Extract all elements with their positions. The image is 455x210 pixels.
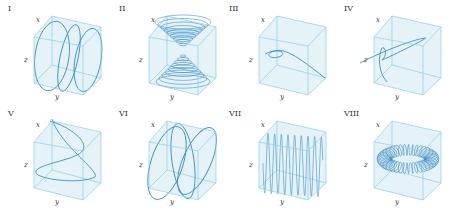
- x-axis-label: x: [36, 16, 40, 24]
- panel-v: V x z y: [0, 105, 114, 210]
- panel-i: I x z y: [0, 0, 114, 105]
- cube-plot: [0, 105, 114, 210]
- panel-numeral: VI: [119, 109, 128, 118]
- panel-numeral: V: [8, 109, 14, 118]
- panel-numeral: IV: [344, 4, 353, 13]
- z-axis-label: z: [24, 161, 28, 169]
- y-axis-label: y: [170, 198, 174, 206]
- z-axis-label: z: [364, 161, 368, 169]
- y-axis-label: y: [280, 93, 284, 101]
- y-axis-label: y: [55, 198, 59, 206]
- cube-plot: [0, 0, 114, 105]
- cube-plot: [115, 105, 229, 210]
- cube-plot: [340, 0, 454, 105]
- y-axis-label: y: [55, 93, 59, 101]
- z-axis-label: z: [364, 56, 368, 64]
- z-axis-label: z: [249, 161, 253, 169]
- panel-numeral: VIII: [344, 109, 359, 118]
- panel-iii: III x z y: [225, 0, 339, 105]
- y-axis-label: y: [170, 93, 174, 101]
- panel-numeral: III: [229, 4, 238, 13]
- cube-plot: [225, 105, 339, 210]
- x-axis-label: x: [261, 121, 265, 129]
- cube-plot: [340, 105, 454, 210]
- panel-ii: II x z y: [115, 0, 229, 105]
- z-axis-label: z: [139, 56, 143, 64]
- cube-plot: [225, 0, 339, 105]
- cube-plot: [115, 0, 229, 105]
- y-axis-label: y: [395, 198, 399, 206]
- panel-vii: VII x z y: [225, 105, 339, 210]
- x-axis-label: x: [376, 121, 380, 129]
- z-axis-label: z: [249, 56, 253, 64]
- z-axis-label: z: [24, 56, 28, 64]
- y-axis-label: y: [395, 93, 399, 101]
- y-axis-label: y: [280, 198, 284, 206]
- panel-vi: VI x z y: [115, 105, 229, 210]
- x-axis-label: x: [151, 121, 155, 129]
- panel-viii: VIII x z y: [340, 105, 454, 210]
- z-axis-label: z: [139, 161, 143, 169]
- panel-numeral: II: [119, 4, 125, 13]
- x-axis-label: x: [36, 121, 40, 129]
- panel-numeral: VII: [229, 109, 241, 118]
- panel-numeral: I: [8, 4, 11, 13]
- panel-iv: IV x z y: [340, 0, 454, 105]
- x-axis-label: x: [151, 16, 155, 24]
- x-axis-label: x: [261, 16, 265, 24]
- x-axis-label: x: [376, 16, 380, 24]
